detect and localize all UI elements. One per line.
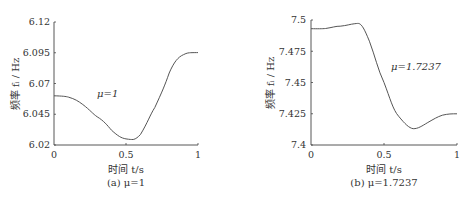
chart-b-xlabel: 时间 t/s bbox=[366, 163, 402, 175]
chart-b-ytick: 7.45 bbox=[285, 77, 306, 88]
chart-b-ylabel: 频率 fᵢ / Hz bbox=[264, 57, 276, 110]
figure: 6.02 6.045 6.07 6.095 6.12 0 0.5 1 时间 t/… bbox=[0, 0, 466, 200]
chart-a-ytick: 6.07 bbox=[29, 78, 50, 89]
chart-b-xtick: 1 bbox=[454, 149, 460, 160]
chart-b-ytick: 7.5 bbox=[291, 14, 306, 25]
chart-b-xtick: 0 bbox=[308, 149, 314, 160]
chart-a-xtick: 0.5 bbox=[118, 149, 133, 160]
chart-b-caption: (b) μ=1.7237 bbox=[350, 177, 417, 188]
chart-a: 6.02 6.045 6.07 6.095 6.12 0 0.5 1 时间 t/… bbox=[9, 16, 201, 188]
chart-a-annotation: μ=1 bbox=[97, 88, 118, 99]
chart-b: 7.4 7.425 7.45 7.475 7.5 0 0.5 1 时间 t/s … bbox=[264, 14, 460, 188]
chart-b-ytick: 7.4 bbox=[291, 139, 306, 150]
chart-a-xtick: 1 bbox=[195, 149, 201, 160]
chart-a-xlabel: 时间 t/s bbox=[108, 163, 144, 175]
chart-b-xtick: 0.5 bbox=[376, 149, 391, 160]
chart-a-ytick: 6.02 bbox=[29, 139, 50, 150]
chart-b-line bbox=[311, 23, 457, 128]
chart-a-ytick: 6.045 bbox=[23, 108, 50, 119]
chart-a-caption: (a) μ=1 bbox=[107, 177, 145, 188]
chart-b-annotation: μ=1.7237 bbox=[391, 61, 442, 72]
chart-b-ytick: 7.475 bbox=[279, 46, 306, 57]
chart-b-ytick: 7.425 bbox=[279, 108, 306, 119]
chart-a-ytick: 6.095 bbox=[23, 47, 50, 58]
chart-a-ytick: 6.12 bbox=[29, 16, 50, 27]
chart-a-ylabel: 频率 fᵢ / Hz bbox=[9, 58, 21, 111]
chart-a-xtick: 0 bbox=[51, 149, 57, 160]
chart-a-line bbox=[54, 53, 198, 140]
